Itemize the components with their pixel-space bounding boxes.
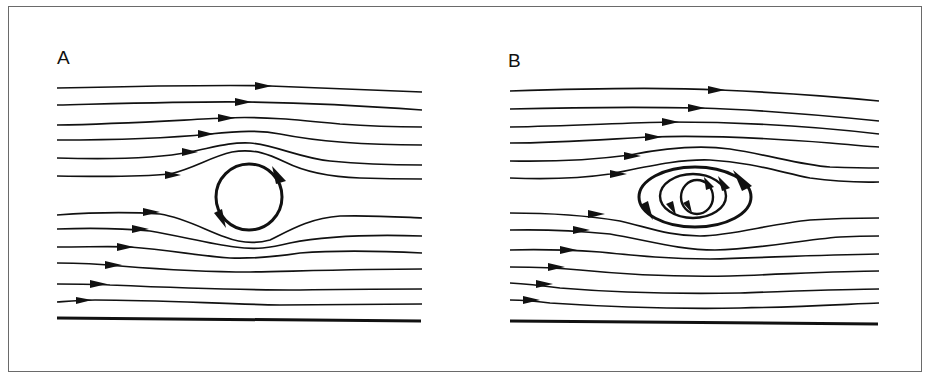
wall-a <box>57 318 421 321</box>
arrow-right-icon <box>708 86 725 94</box>
streamline <box>510 89 879 101</box>
vortex-circle <box>216 164 282 230</box>
streamline <box>57 117 422 127</box>
arrow-right-icon <box>117 243 134 251</box>
streamline <box>57 300 422 305</box>
streamline <box>510 213 879 236</box>
streamline <box>510 230 879 250</box>
arrow-right-icon <box>105 261 122 269</box>
panel-a <box>57 82 422 321</box>
arrow-right-icon <box>132 225 149 233</box>
arrow-right-icon <box>182 148 198 156</box>
streamline <box>57 143 422 165</box>
streamline <box>510 283 879 293</box>
streamline <box>510 136 879 147</box>
vortex-a <box>214 164 286 230</box>
rotation-arrow-icon <box>272 166 286 184</box>
arrow-right-icon <box>90 280 107 288</box>
arrow-right-icon <box>548 263 565 271</box>
arrow-right-icon <box>560 246 577 254</box>
arrow-right-icon <box>523 296 540 304</box>
arrow-right-icon <box>255 82 272 90</box>
streamline <box>510 147 879 168</box>
arrow-right-icon <box>688 104 705 112</box>
streamline <box>510 122 879 134</box>
flow-diagram <box>0 0 936 385</box>
flow-arrows-a <box>76 82 272 304</box>
arrow-right-icon <box>218 114 235 122</box>
arrow-right-icon <box>143 208 160 216</box>
streamline <box>57 284 422 290</box>
arrow-right-icon <box>76 297 92 304</box>
streamline <box>57 228 422 248</box>
streamline <box>510 300 879 308</box>
streamline <box>57 86 422 92</box>
wall-b <box>510 321 878 324</box>
vortex-b <box>639 167 752 227</box>
arrow-right-icon <box>588 210 605 218</box>
arrow-right-icon <box>645 133 662 141</box>
arrow-right-icon <box>198 130 214 138</box>
streamline <box>510 160 879 182</box>
streamline <box>510 267 879 276</box>
arrow-right-icon <box>662 118 679 126</box>
panel-b <box>510 86 879 324</box>
arrow-right-icon <box>235 98 252 106</box>
flow-arrows-b <box>523 86 725 304</box>
streamlines-below-a <box>57 213 422 305</box>
